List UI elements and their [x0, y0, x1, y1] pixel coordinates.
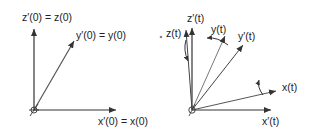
label-y-initial: y′(0) = y(0)	[76, 30, 126, 41]
y-axis	[34, 41, 74, 110]
label-z-t: z(t)	[166, 28, 181, 39]
rotation-arrow-y	[207, 38, 228, 45]
label-y-prime-t: y′(t)	[238, 31, 255, 42]
rotation-arrow-x	[259, 80, 264, 95]
initial-frame	[29, 29, 116, 116]
label-z-prime-t: z′(t)	[187, 13, 204, 24]
z-t-axis	[186, 30, 192, 110]
dot-marker	[160, 36, 163, 39]
label-y-t: y(t)	[211, 24, 226, 35]
label-x-initial: x′(0) = x(0)	[98, 116, 148, 127]
label-x-t: x(t)	[282, 82, 297, 93]
label-x-prime-t: x′(t)	[262, 116, 279, 127]
y-t-axis	[192, 36, 225, 110]
rotated-frame	[160, 28, 276, 116]
label-z-initial: z′(0) = z(0)	[22, 12, 72, 23]
